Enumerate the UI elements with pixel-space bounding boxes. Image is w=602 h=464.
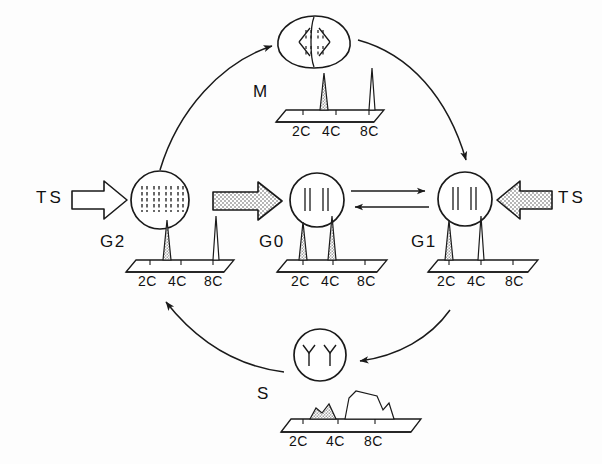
phase-label-m: M xyxy=(253,82,269,102)
arrow-g2-to-m xyxy=(160,46,272,170)
hist-s-tick-2c: 2C xyxy=(289,433,308,449)
hist-g0-tick-8c: 8C xyxy=(357,273,376,289)
hist-M xyxy=(276,68,384,122)
hist-s-tick-4c: 4C xyxy=(326,433,345,449)
hist-G0 xyxy=(277,216,387,272)
hist-g0-tick-2c: 2C xyxy=(291,273,310,289)
ts-right-arrow-shape xyxy=(497,181,552,219)
ts-right-label: TS xyxy=(558,188,586,208)
hist-G1 xyxy=(428,216,538,272)
diagram-canvas xyxy=(0,0,602,464)
m-phase-cell-icon xyxy=(278,16,350,68)
hist-g1-tick-4c: 4C xyxy=(467,273,486,289)
arrow-g1-to-s xyxy=(360,310,450,361)
hist-S xyxy=(281,391,421,432)
hist-G2 xyxy=(126,216,234,272)
hist-g2-tick-4c: 4C xyxy=(168,273,187,289)
hist-s-tick-8c: 8C xyxy=(364,433,383,449)
hist-g1-tick-2c: 2C xyxy=(437,273,456,289)
arrow-s-to-g2 xyxy=(166,302,284,372)
phase-label-g0: G0 xyxy=(259,232,285,252)
ts-left-label: TS xyxy=(36,188,64,208)
hist-m-tick-4c: 4C xyxy=(322,123,341,139)
cell-cycle-diagram: TS TS M G2 G0 G1 S 2C 4C 8C 2C 4C 8C 2C … xyxy=(0,0,602,464)
phase-label-g2: G2 xyxy=(100,232,126,252)
hist-m-tick-2c: 2C xyxy=(292,123,311,139)
phase-label-s: S xyxy=(257,384,270,404)
phase-label-g1: G1 xyxy=(411,232,437,252)
g0-cell-icon xyxy=(290,173,344,227)
g2-cell-icon xyxy=(131,171,189,229)
hist-g1-tick-8c: 8C xyxy=(505,273,524,289)
arrow-g2-to-g0-shape xyxy=(213,182,282,220)
hist-g2-tick-8c: 8C xyxy=(204,273,223,289)
arrow-g0-g1-double xyxy=(351,191,429,207)
hist-g0-tick-4c: 4C xyxy=(321,273,340,289)
hist-g2-tick-2c: 2C xyxy=(138,273,157,289)
hist-m-tick-8c: 8C xyxy=(360,123,379,139)
s-cell-icon xyxy=(294,329,346,381)
ts-left-arrow-shape xyxy=(72,181,127,219)
g1-cell-icon xyxy=(438,172,492,226)
